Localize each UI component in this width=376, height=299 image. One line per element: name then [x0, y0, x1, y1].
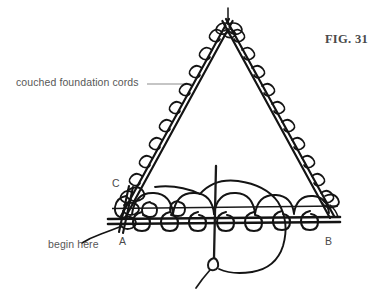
- right-foundation-cord: [222, 19, 334, 218]
- upper-thread-line: [112, 206, 338, 209]
- working-thread-loop: [155, 181, 286, 273]
- working-loop-return: [219, 269, 252, 273]
- needle: [196, 166, 218, 288]
- base-cord-bottom-strand: [108, 222, 340, 224]
- right-cord-gap-highlight: [224, 20, 332, 217]
- needle-eye: [208, 258, 218, 270]
- couched-foundation-cords-label: couched foundation cords: [16, 77, 139, 88]
- left-leg-couching-stitches: [120, 30, 222, 203]
- base-arch-loops: [132, 193, 329, 214]
- figure-container: FIG. 31 couched foundation cords begin h…: [0, 0, 376, 299]
- base-buttonhole-loops: [133, 211, 318, 231]
- base-foundation-cord: [108, 217, 340, 224]
- point-label-a: A: [119, 236, 126, 247]
- arch-loop: [214, 193, 255, 214]
- upper-loop: [142, 202, 157, 217]
- needle-point-tail: [196, 270, 210, 288]
- point-label-b: B: [325, 236, 332, 247]
- point-label-c: C: [112, 178, 120, 189]
- buttonhole-loop: [189, 212, 206, 231]
- buttonhole-loop: [217, 212, 234, 231]
- base-upper-thread: [112, 206, 338, 209]
- right-cord-strand-inner: [222, 21, 330, 218]
- arch-loop: [173, 193, 214, 214]
- base-cord-top-strand: [108, 217, 340, 219]
- figure-caption: FIG. 31: [325, 33, 368, 46]
- needle-shaft: [214, 166, 216, 258]
- begin-here-label: begin here: [48, 239, 99, 250]
- buttonhole-loop: [301, 211, 318, 230]
- needlework-diagram: [0, 0, 376, 299]
